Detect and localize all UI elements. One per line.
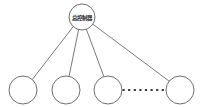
edge-root-to-leaf-3 (86, 29, 103, 76)
root-node[interactable]: 总控制器 (69, 4, 95, 30)
leaf-circle[interactable] (166, 76, 194, 104)
leaf-node-3[interactable] (94, 76, 122, 104)
topology-diagram: 总控制器 (0, 0, 201, 107)
leaf-node-4[interactable] (166, 76, 194, 104)
edge-root-to-leaf-4 (93, 24, 169, 81)
edge-root-to-leaf-2 (69, 30, 79, 77)
leaf-node-1[interactable] (9, 76, 37, 104)
edge-group (32, 24, 169, 81)
edge-root-to-leaf-1 (32, 27, 73, 80)
root-node-label: 总控制器 (72, 14, 93, 22)
leaf-circle[interactable] (52, 76, 80, 104)
leaf-circle[interactable] (94, 76, 122, 104)
leaf-circle[interactable] (9, 76, 37, 104)
leaf-node-2[interactable] (52, 76, 80, 104)
diagram-canvas: 总控制器 (0, 0, 201, 107)
